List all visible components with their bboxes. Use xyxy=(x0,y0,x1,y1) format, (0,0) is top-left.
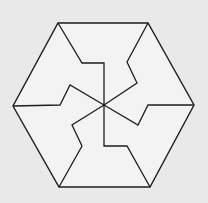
center-point xyxy=(103,104,105,106)
diagram-svg xyxy=(0,0,208,203)
hexagon-dissection-diagram xyxy=(0,0,208,203)
